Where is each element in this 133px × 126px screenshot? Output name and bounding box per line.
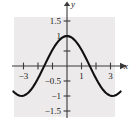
x-tick-label-1: 1 xyxy=(79,71,84,81)
y-tick-label-1p5: 1.5 xyxy=(50,16,62,26)
y-tick-label-neg0p5: −0.5 xyxy=(45,76,62,86)
x-tick-label-neg3: −3 xyxy=(19,71,29,81)
plot-area-background xyxy=(14,17,115,117)
y-tick-label-neg1: −1 xyxy=(51,91,61,101)
y-tick-label-1: 1 xyxy=(57,31,62,41)
x-axis-label: x xyxy=(123,61,128,71)
y-axis-arrowhead xyxy=(64,2,70,7)
x-tick-label-3: 3 xyxy=(108,71,113,81)
cosine-graph-figure: −313 1.51−0.5−1−1.5 x y xyxy=(0,0,133,126)
y-axis-label: y xyxy=(70,0,75,9)
y-tick-label-neg1p5: −1.5 xyxy=(45,106,62,116)
plot-canvas: −313 1.51−0.5−1−1.5 x y xyxy=(0,0,133,126)
